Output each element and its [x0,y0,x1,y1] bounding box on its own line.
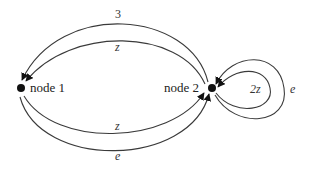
edge-label-z-top: z [114,40,120,54]
node-1-dot [17,84,25,92]
node-2-label: node 2 [164,80,199,95]
self-loop-node2-inner [216,71,270,108]
edge-label-2z-loop: 2z [250,82,261,96]
edge-label-z-bottom: z [114,119,120,133]
edge-label-3: 3 [115,7,121,21]
edge-label-e-loop: e [290,82,296,96]
transition-diagram: node 1 node 2 3 z z e 2z e [0,0,309,169]
node-2-dot [208,84,216,92]
edge-label-e-bottom: e [115,149,121,163]
edge-node1-to-node2-inner [24,93,204,134]
node-1-label: node 1 [30,80,65,95]
